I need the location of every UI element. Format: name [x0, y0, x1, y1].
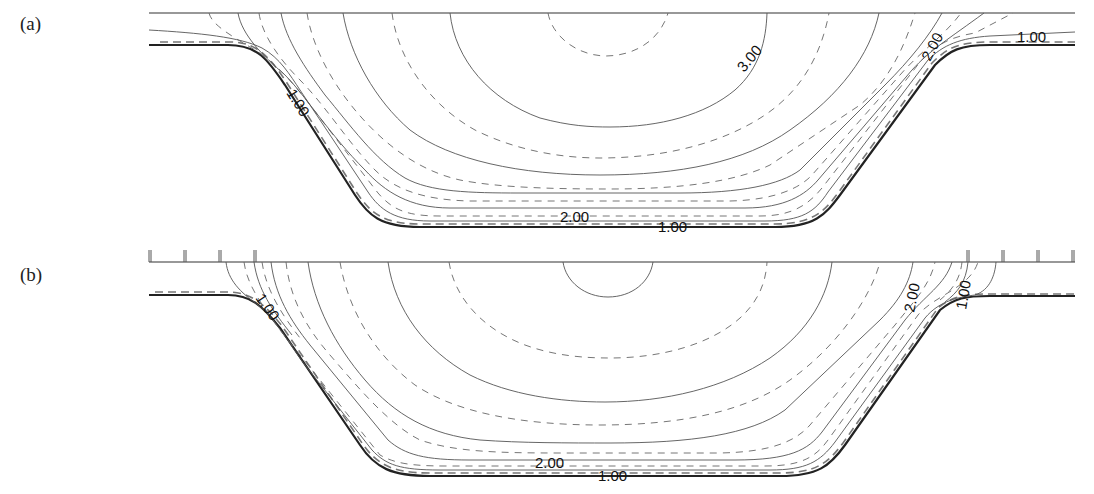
- contour-label: 3.00: [733, 42, 765, 75]
- contour-line: [209, 13, 1013, 216]
- contour-label: 2.00: [560, 208, 589, 225]
- contour-line: [286, 262, 935, 453]
- contour-label: 2.00: [535, 454, 564, 471]
- panel-b-plot: 1.00 2.00 1.00 2.00 1.00: [149, 250, 1075, 484]
- contour-line: [450, 13, 767, 127]
- contour-line: [548, 13, 668, 56]
- contour-label: 1.00: [1017, 28, 1046, 45]
- bed-dashed-contour: [155, 292, 1075, 473]
- contour-line: [449, 262, 767, 358]
- contour-label: 1.00: [658, 218, 687, 235]
- contour-label: 1.00: [253, 290, 284, 324]
- floodplain-vegetation-markers: [149, 250, 1074, 262]
- contour-line: [392, 13, 829, 158]
- contour-line: [271, 262, 952, 460]
- contour-label: 1.00: [283, 86, 313, 120]
- contour-line: [388, 262, 832, 402]
- contour-line: [308, 262, 913, 443]
- contour-line: [343, 13, 879, 175]
- contour-line: [281, 13, 942, 193]
- contour-line: [238, 13, 984, 208]
- contour-line: [563, 262, 653, 297]
- contour-label: 1.00: [598, 467, 627, 484]
- contour-figure: 1.00 3.00 2.00 1.00 2.00 1.00: [0, 0, 1094, 494]
- contour-line: [340, 262, 880, 425]
- panel-a-plot: 1.00 3.00 2.00 1.00 2.00 1.00: [149, 13, 1075, 235]
- bed-dashed-contour: [160, 42, 1075, 224]
- contour-line: [226, 262, 996, 470]
- contour-label: 1.00: [952, 279, 974, 311]
- contour-label: 2.00: [900, 282, 923, 314]
